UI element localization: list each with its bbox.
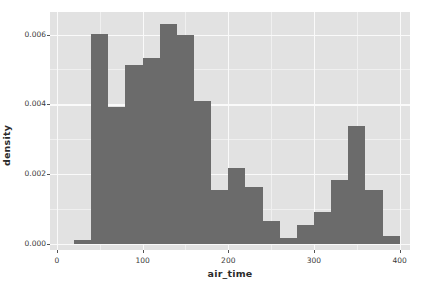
histogram-bar	[314, 212, 331, 244]
x-tick-mark	[57, 250, 58, 253]
x-tick-label: 100	[123, 256, 163, 265]
x-tick-mark	[228, 250, 229, 253]
y-tick-label: 0.006	[12, 31, 46, 39]
histogram-plot: density 0.0000.0020.0040.006 01002003004…	[0, 0, 422, 291]
x-tick-label: 400	[380, 256, 420, 265]
histogram-bar	[143, 58, 160, 244]
grid-major-vertical	[57, 12, 58, 250]
grid-major-horizontal	[50, 244, 410, 245]
histogram-bar	[280, 238, 297, 244]
histogram-bar	[348, 126, 365, 244]
histogram-bar	[125, 65, 142, 244]
histogram-bar	[211, 190, 228, 243]
histogram-bar	[177, 35, 194, 244]
histogram-bar	[108, 107, 125, 244]
histogram-bar	[263, 221, 280, 243]
x-axis-ticks: 0100200300400	[50, 250, 410, 268]
x-tick-label: 0	[37, 256, 77, 265]
histogram-bar	[297, 225, 314, 244]
histogram-bar	[383, 236, 400, 243]
grid-major-vertical	[400, 12, 401, 250]
x-tick-label: 300	[294, 256, 334, 265]
histogram-bar	[74, 240, 91, 243]
y-axis-ticks: 0.0000.0020.0040.006	[8, 0, 46, 291]
histogram-bar	[228, 168, 245, 243]
x-tick-mark	[400, 250, 401, 253]
histogram-bar	[160, 24, 177, 244]
histogram-bar	[91, 34, 108, 243]
x-tick-mark	[314, 250, 315, 253]
y-tick-label: 0.004	[12, 100, 46, 108]
plot-panel	[50, 12, 410, 250]
y-tick-label: 0.002	[12, 170, 46, 178]
grid-minor-vertical	[271, 12, 272, 250]
y-tick-label: 0.000	[12, 240, 46, 248]
x-tick-mark	[143, 250, 144, 253]
histogram-bar	[194, 101, 211, 244]
x-tick-label: 200	[208, 256, 248, 265]
x-axis-title: air_time	[50, 268, 410, 279]
histogram-bar	[365, 190, 382, 243]
histogram-bar	[245, 187, 262, 244]
histogram-bar	[331, 180, 348, 244]
